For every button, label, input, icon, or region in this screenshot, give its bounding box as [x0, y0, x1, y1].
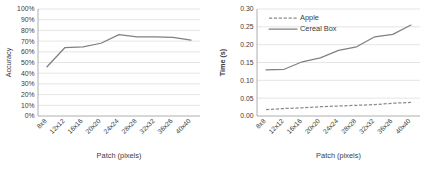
x-axis-tick-label: 40x40: [174, 117, 192, 135]
accuracy-line-chart: 0%10%20%30%40%50%60%70%80%90%100%8x812x1…: [0, 0, 215, 171]
figure-two-panel-charts: 0%10%20%30%40%50%60%70%80%90%100%8x812x1…: [0, 0, 431, 171]
x-axis-title: Patch (pixels): [97, 151, 142, 160]
y-axis-tick-label: 0.20: [240, 41, 253, 48]
y-axis-tick-label: 90%: [21, 16, 35, 23]
x-axis-tick-label: 28x28: [340, 117, 358, 135]
x-axis-tick-label: 36x26: [376, 117, 394, 135]
y-axis-tick-label: 20%: [21, 91, 35, 98]
x-axis-tick-label: 12x12: [48, 117, 66, 135]
x-axis-tick-label: 24x24: [102, 117, 120, 135]
x-axis-tick-label: 20x20: [303, 117, 321, 135]
x-axis-tick-label: 16x16: [285, 117, 303, 135]
legend-label-cereal-box: Cereal Box: [300, 24, 337, 33]
x-axis-tick-label: 32x32: [138, 117, 156, 135]
chart-panel-accuracy: 0%10%20%30%40%50%60%70%80%90%100%8x812x1…: [0, 0, 215, 171]
y-axis-tick-label: 80%: [21, 27, 35, 34]
y-axis-tick-label: 30%: [21, 80, 35, 87]
x-axis-tick-label: 36x26: [156, 117, 174, 135]
y-axis-tick-label: 40%: [21, 70, 35, 77]
y-axis-tick-label: 0.05: [240, 95, 253, 102]
y-axis-title: Accuracy: [4, 47, 13, 77]
y-axis-tick-label: 60%: [21, 48, 35, 55]
x-axis-tick-label: 20x20: [84, 117, 102, 135]
chart-panel-time: 0.000.050.100.150.200.250.308x812x1216x1…: [215, 0, 431, 171]
time-line-chart: 0.000.050.100.150.200.250.308x812x1216x1…: [215, 0, 431, 171]
x-axis-tick-label: 32x32: [358, 117, 376, 135]
x-axis-title: Patch (pixels): [316, 151, 361, 160]
x-axis-tick-label: 8x8: [254, 117, 267, 130]
y-axis-tick-label: 0.10: [240, 77, 253, 84]
y-axis-tick-label: 70%: [21, 38, 35, 45]
y-axis-tick-label: 0.30: [240, 5, 253, 12]
y-axis-tick-label: 100%: [17, 5, 34, 12]
legend-label-apple: Apple: [300, 13, 319, 22]
x-axis-tick-label: 40x40: [394, 117, 412, 135]
y-axis-tick-label: 0.00: [240, 112, 253, 119]
series-line-cereal-box: [266, 25, 411, 70]
x-axis-tick-label: 8x8: [35, 117, 48, 130]
y-axis-tick-label: 0.25: [240, 23, 253, 30]
series-line-apple: [266, 102, 411, 109]
x-axis-tick-label: 12x12: [267, 117, 285, 135]
y-axis-tick-label: 50%: [21, 59, 35, 66]
x-axis-tick-label: 24x24: [322, 117, 340, 135]
series-line-accuracy: [47, 35, 191, 67]
y-axis-tick-label: 10%: [21, 102, 35, 109]
x-axis-tick-label: 28x28: [120, 117, 138, 135]
y-axis-title: Time (s): [218, 48, 227, 76]
y-axis-tick-label: 0.15: [240, 59, 253, 66]
y-axis-tick-label: 0%: [25, 112, 35, 119]
x-axis-tick-label: 16x16: [66, 117, 84, 135]
